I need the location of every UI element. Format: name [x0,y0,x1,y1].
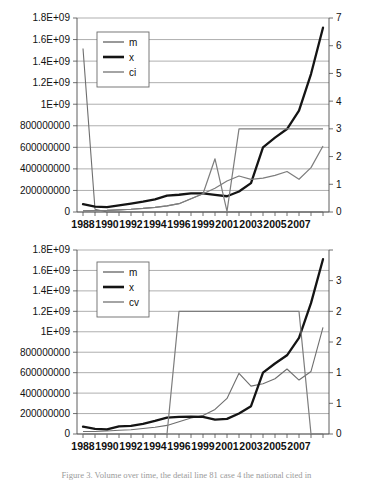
chart-top-left-axis-labels: 02000000004000000006000000008000000001E+… [20,12,71,217]
left-axis-label: 600000000 [20,142,70,153]
x-axis-label: 2003 [239,440,263,452]
x-axis-label: 2005 [263,440,287,452]
legend-label-x: x [129,282,134,293]
x-axis-label: 2007 [287,440,311,452]
x-axis-label: 1994 [143,440,167,452]
left-axis-label: 1.8E+09 [32,12,70,23]
x-axis-label: 1990 [95,218,119,230]
left-axis-label: 1.6E+09 [32,34,70,45]
chart-top-svg: 02000000004000000006000000008000000001E+… [0,4,373,240]
legend-box [97,262,149,317]
legend-label-x: x [129,52,134,63]
chart-panel-top: 02000000004000000006000000008000000001E+… [0,4,373,240]
x-axis-label: 1996 [167,218,191,230]
right-axis-label: 3 [336,275,342,286]
left-axis-label: 800000000 [20,120,70,131]
left-axis-label: 1.6E+09 [32,265,70,276]
chart-top-legend: mxci [97,32,149,87]
legend-box [97,32,149,87]
left-axis-label: 1.8E+09 [32,244,70,255]
chart-top-xaxis-labels: 1988199019921994199619992001200320052007 [71,218,311,230]
x-axis-label: 2003 [239,218,263,230]
right-axis-label: 1 [336,367,342,378]
legend-label-m: m [129,37,137,48]
x-axis-label: 2007 [287,218,311,230]
left-axis-label: 800000000 [20,347,70,358]
right-axis-label: 0 [336,206,342,217]
chart-bottom-svg: 02000000004000000006000000008000000001E+… [0,238,373,470]
right-axis-label: 7 [336,12,342,23]
right-axis-label: 3 [336,123,342,134]
chart-bottom-xaxis-labels: 1988199019921994199619992001200320052007 [71,440,311,452]
left-axis-label: 600000000 [20,367,70,378]
series-line-ci [83,129,323,212]
right-axis-label: 4 [336,96,342,107]
left-axis-label: 0 [64,206,70,217]
left-axis-label: 200000000 [20,408,70,419]
left-axis-label: 1E+09 [41,326,71,337]
right-axis-label: 1 [336,179,342,190]
left-axis-label: 200000000 [20,185,70,196]
figure-caption: Figure 3. Volume over time, the detail l… [0,470,373,482]
x-axis-label: 1999 [191,440,215,452]
left-axis-label: 1.2E+09 [32,77,70,88]
x-axis-label: 1996 [167,440,191,452]
right-axis-label: 2 [336,151,342,162]
chart-panel-bottom: 02000000004000000006000000008000000001E+… [0,238,373,470]
right-axis-label: 0 [336,428,342,439]
figure-caption-text: Figure 3. Volume over time, the detail l… [0,470,373,481]
right-axis-label: 2 [336,306,342,317]
right-axis-label: 1 [336,398,342,409]
chart-top-right-axis-labels: 01234567 [336,12,342,217]
x-axis-label: 1988 [71,218,95,230]
left-axis-label: 400000000 [20,163,70,174]
series-line-ci-secondary [83,146,323,211]
figure-two-panel-line-charts: 02000000004000000006000000008000000001E+… [0,0,373,482]
legend-label-ci: ci [129,67,136,78]
x-axis-label: 1992 [119,218,143,230]
right-axis-label: 6 [336,40,342,51]
x-axis-label: 2001 [215,440,239,452]
x-axis-label: 1990 [95,440,119,452]
chart-bottom-legend: mxcv [97,262,149,317]
left-axis-label: 1.4E+09 [32,285,70,296]
left-axis-label: 400000000 [20,388,70,399]
left-axis-label: 1E+09 [41,99,71,110]
x-axis-label: 2001 [215,218,239,230]
right-axis-label: 5 [336,68,342,79]
legend-label-m: m [129,267,137,278]
left-axis-label: 1.4E+09 [32,56,70,67]
x-axis-label: 1999 [191,218,215,230]
x-axis-label: 1992 [119,440,143,452]
chart-bottom-right-axis-labels: 011223 [336,275,342,439]
x-axis-label: 2005 [263,218,287,230]
right-axis-label: 2 [336,336,342,347]
left-axis-label: 0 [64,428,70,439]
legend-label-cv: cv [129,297,139,308]
left-axis-label: 1.2E+09 [32,306,70,317]
x-axis-label: 1994 [143,218,167,230]
x-axis-label: 1988 [71,440,95,452]
chart-bottom-left-axis-labels: 02000000004000000006000000008000000001E+… [20,244,71,439]
